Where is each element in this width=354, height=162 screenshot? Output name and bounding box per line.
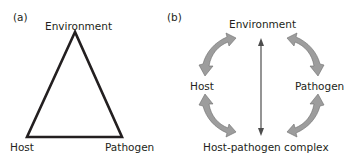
- label-environment-a: Environment: [45, 21, 112, 32]
- label-host-pathogen-complex: Host-pathogen complex: [203, 142, 329, 153]
- panel-b-label: (b): [167, 12, 182, 23]
- vertical-double-arrow: [258, 38, 264, 136]
- panel-a-label: (a): [13, 12, 28, 23]
- curved-arrow-pathogen-complex: [287, 94, 324, 137]
- label-pathogen-b: Pathogen: [295, 81, 344, 92]
- curved-arrow-host-environment: [199, 33, 236, 76]
- label-host-b: Host: [190, 81, 214, 92]
- curved-arrow-host-complex: [199, 94, 236, 137]
- curved-arrow-environment-pathogen: [287, 33, 324, 76]
- label-host-a: Host: [10, 142, 34, 153]
- label-pathogen-a: Pathogen: [105, 142, 154, 153]
- disease-triangle: [27, 32, 122, 137]
- label-environment-b: Environment: [229, 19, 296, 30]
